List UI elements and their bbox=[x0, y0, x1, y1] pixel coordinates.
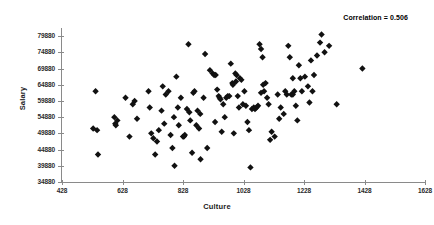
data-point bbox=[185, 41, 191, 47]
x-axis-title: Culture bbox=[0, 202, 434, 211]
data-point bbox=[321, 49, 327, 55]
data-point bbox=[317, 39, 323, 45]
data-point bbox=[176, 122, 182, 128]
data-point bbox=[145, 88, 151, 94]
data-point bbox=[167, 132, 173, 138]
data-point bbox=[309, 88, 315, 94]
x-axis-tick-label: 828 bbox=[178, 187, 189, 194]
data-point bbox=[244, 119, 250, 125]
x-axis-tick-label: 428 bbox=[57, 187, 68, 194]
data-point bbox=[299, 88, 305, 94]
data-point bbox=[333, 101, 339, 107]
data-point bbox=[222, 114, 228, 120]
data-point bbox=[241, 88, 247, 94]
data-point bbox=[122, 95, 128, 101]
data-point bbox=[296, 62, 302, 68]
data-point bbox=[212, 119, 218, 125]
data-point bbox=[290, 75, 296, 81]
data-point bbox=[294, 117, 300, 123]
data-point bbox=[264, 95, 270, 101]
data-point bbox=[214, 86, 220, 92]
x-axis-tick-label: 628 bbox=[117, 187, 128, 194]
data-point bbox=[311, 72, 317, 78]
data-point bbox=[306, 99, 312, 105]
y-axis-title: Salary bbox=[18, 69, 27, 129]
x-axis-tick bbox=[425, 180, 426, 185]
data-point bbox=[246, 127, 252, 133]
data-point bbox=[202, 51, 208, 57]
x-axis-tick-label: 1628 bbox=[418, 187, 432, 194]
data-point bbox=[134, 116, 140, 122]
x-axis-tick-label: 1228 bbox=[297, 187, 311, 194]
data-point bbox=[175, 104, 181, 110]
y-axis-tick-label: 74880 bbox=[37, 48, 55, 55]
data-point bbox=[228, 60, 234, 66]
data-point bbox=[169, 145, 175, 151]
data-point bbox=[258, 46, 264, 52]
y-axis-tick-label: 39880 bbox=[37, 162, 55, 169]
data-point bbox=[278, 104, 284, 110]
data-point bbox=[171, 114, 177, 120]
x-axis-tick-label: 1028 bbox=[236, 187, 250, 194]
data-point bbox=[259, 54, 265, 60]
data-point bbox=[268, 129, 274, 135]
data-point bbox=[95, 151, 101, 157]
y-axis-tick-label: 79880 bbox=[37, 32, 55, 39]
data-point bbox=[308, 57, 314, 63]
data-point bbox=[285, 43, 291, 49]
data-point bbox=[160, 83, 166, 89]
data-point bbox=[281, 111, 287, 117]
data-point bbox=[305, 83, 311, 89]
data-point bbox=[314, 52, 320, 58]
data-point bbox=[189, 150, 195, 156]
y-axis-tick-label: 54880 bbox=[37, 113, 55, 120]
y-axis-tick bbox=[58, 182, 64, 183]
plot-area bbox=[62, 28, 425, 182]
data-point bbox=[92, 88, 98, 94]
data-point bbox=[126, 133, 132, 139]
data-point bbox=[173, 73, 179, 79]
data-point bbox=[158, 107, 164, 113]
data-point bbox=[267, 137, 273, 143]
data-point bbox=[274, 91, 280, 97]
data-point bbox=[271, 133, 277, 139]
y-axis-tick-label: 69880 bbox=[37, 65, 55, 72]
data-point bbox=[156, 127, 162, 133]
scatter-chart: Correlation = 0.506 34880398804488049880… bbox=[0, 0, 434, 225]
data-point bbox=[256, 41, 262, 47]
data-point bbox=[147, 104, 153, 110]
data-point bbox=[204, 145, 210, 151]
data-point bbox=[197, 156, 203, 162]
y-axis-tick-label: 44880 bbox=[37, 146, 55, 153]
y-axis-tick-label: 34880 bbox=[37, 178, 55, 185]
x-axis-tick-label: 1428 bbox=[357, 187, 371, 194]
data-point bbox=[171, 163, 177, 169]
data-point bbox=[326, 43, 332, 49]
correlation-annotation: Correlation = 0.506 bbox=[343, 14, 408, 21]
data-point bbox=[265, 101, 271, 107]
data-points-layer bbox=[62, 28, 425, 182]
data-point bbox=[152, 151, 158, 157]
data-point bbox=[235, 93, 241, 99]
data-point bbox=[276, 116, 282, 122]
data-point bbox=[293, 103, 299, 109]
data-point bbox=[231, 130, 237, 136]
y-axis-tick-label: 59880 bbox=[37, 97, 55, 104]
data-point bbox=[200, 95, 206, 101]
y-axis-tick-label: 64880 bbox=[37, 81, 55, 88]
data-point bbox=[287, 54, 293, 60]
data-point bbox=[318, 31, 324, 37]
data-point bbox=[161, 120, 167, 126]
data-point bbox=[178, 95, 184, 101]
data-point bbox=[359, 65, 365, 71]
data-point bbox=[187, 117, 193, 123]
y-axis-tick-label: 49880 bbox=[37, 129, 55, 136]
data-point bbox=[219, 129, 225, 135]
data-point bbox=[247, 164, 253, 170]
